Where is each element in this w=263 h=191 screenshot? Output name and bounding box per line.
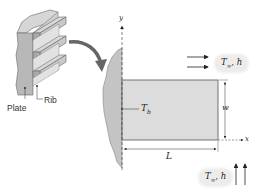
- length-label: L: [166, 152, 172, 161]
- width-label: w: [222, 104, 229, 112]
- rib-label: Rib: [44, 96, 57, 105]
- x-axis-label: x: [245, 136, 249, 143]
- fin-diagram: [0, 0, 263, 191]
- fin-rib: [122, 80, 218, 140]
- base-temperature-label: Tb: [141, 104, 151, 115]
- fluid-condition-top: T∞, h: [216, 56, 247, 71]
- fluid-condition-bottom: T∞, h: [200, 170, 231, 185]
- plate-label: Plate: [7, 104, 26, 113]
- y-axis-label: y: [119, 15, 123, 22]
- wall-base: [103, 48, 122, 168]
- curved-arrow: [69, 42, 101, 64]
- ribbed-plate-illustration: [16, 10, 66, 99]
